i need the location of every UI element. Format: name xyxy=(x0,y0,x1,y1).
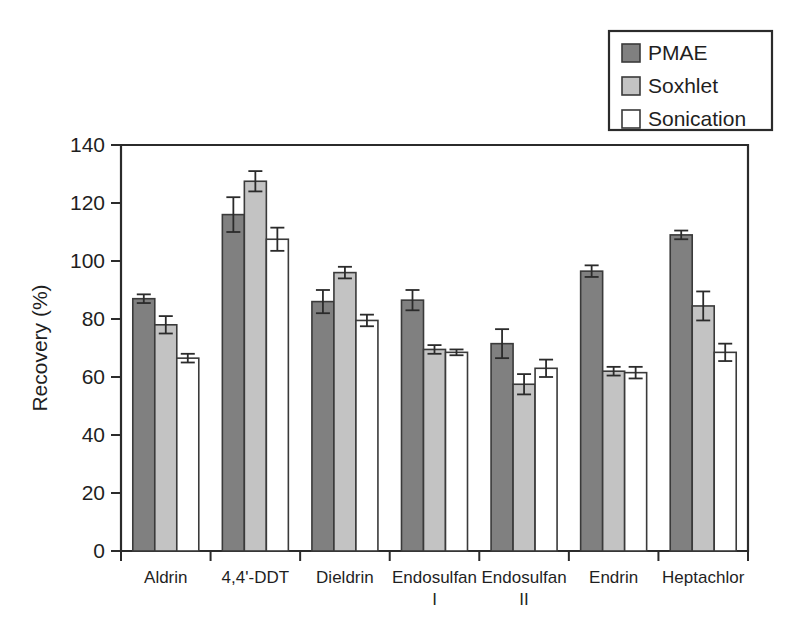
bar xyxy=(244,181,266,551)
y-axis: 020406080100120140 xyxy=(70,133,121,562)
y-tick-label: 20 xyxy=(82,481,105,504)
x-category-label: Dieldrin xyxy=(316,568,374,587)
y-tick-label: 100 xyxy=(70,249,105,272)
legend-swatch-soxhlet xyxy=(622,77,640,95)
bar xyxy=(535,368,557,551)
bar xyxy=(266,239,288,551)
chart-canvas: 020406080100120140 Aldrin4,4'-DDTDieldri… xyxy=(0,0,792,636)
legend: PMAE Soxhlet Sonication xyxy=(609,31,772,130)
bar xyxy=(356,320,378,551)
bars-layer xyxy=(133,181,736,551)
legend-swatch-sonication xyxy=(622,110,640,128)
legend-label-sonication: Sonication xyxy=(648,107,746,130)
y-tick-label: 120 xyxy=(70,191,105,214)
bar xyxy=(334,273,356,551)
x-category-label: Heptachlor xyxy=(662,568,745,587)
legend-swatch-pmae xyxy=(622,44,640,62)
y-tick-label: 0 xyxy=(93,539,105,562)
legend-label-soxhlet: Soxhlet xyxy=(648,74,718,97)
bar xyxy=(670,235,692,551)
y-tick-label: 40 xyxy=(82,423,105,446)
bar xyxy=(424,349,446,551)
x-axis-category-labels: Aldrin4,4'-DDTDieldrinEndosulfanIEndosul… xyxy=(144,568,745,609)
bar xyxy=(222,215,244,551)
bar xyxy=(491,344,513,551)
bar xyxy=(625,373,647,551)
bar xyxy=(133,299,155,551)
bar xyxy=(603,371,625,551)
x-category-label: EndosulfanI xyxy=(392,568,477,609)
legend-label-pmae: PMAE xyxy=(648,41,708,64)
bar xyxy=(446,352,468,551)
x-category-label: 4,4'-DDT xyxy=(222,568,289,587)
x-category-label: Endrin xyxy=(589,568,638,587)
x-category-label: Aldrin xyxy=(144,568,187,587)
bar xyxy=(692,306,714,551)
y-tick-label: 60 xyxy=(82,365,105,388)
y-tick-label: 140 xyxy=(70,133,105,156)
bar xyxy=(312,302,334,551)
bar xyxy=(513,384,535,551)
y-tick-label: 80 xyxy=(82,307,105,330)
bar-chart-figure: 020406080100120140 Aldrin4,4'-DDTDieldri… xyxy=(0,0,792,636)
x-category-label: EndosulfanII xyxy=(482,568,567,609)
y-axis-title: Recovery (%) xyxy=(28,284,51,411)
bar xyxy=(402,300,424,551)
x-axis-ticks xyxy=(121,551,748,561)
bar xyxy=(714,352,736,551)
bar xyxy=(581,271,603,551)
bar xyxy=(155,325,177,551)
bar xyxy=(177,358,199,551)
